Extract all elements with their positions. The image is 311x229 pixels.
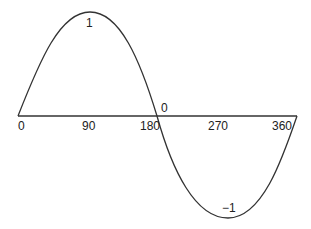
tick-360: 360 (272, 120, 292, 132)
tick-90: 90 (82, 120, 95, 132)
tick-180: 180 (140, 120, 160, 132)
tick-0: 0 (18, 120, 25, 132)
sine-curve (18, 12, 297, 218)
trough-label: −1 (222, 202, 236, 214)
sine-chart (0, 0, 311, 229)
tick-270: 270 (208, 120, 228, 132)
zero-label: 0 (161, 102, 168, 114)
peak-label: 1 (86, 17, 93, 29)
